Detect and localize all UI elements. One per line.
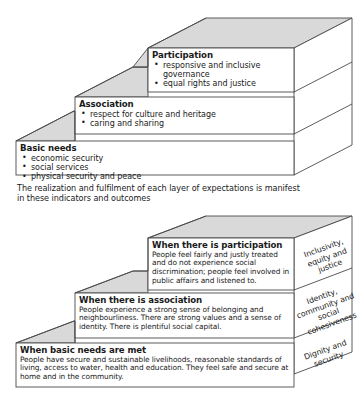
bottom-step-association-body: People experience a strong sense of belo… bbox=[79, 306, 292, 332]
bottom-step-association-title: When there is association bbox=[79, 295, 292, 305]
bottom-step-basic-needs-title: When basic needs are met bbox=[20, 345, 292, 355]
bottom-staircase-shape bbox=[0, 0, 363, 397]
bottom-step-association: When there is association People experie… bbox=[79, 295, 292, 332]
figure-stage: Participation •responsive and inclusive … bbox=[0, 0, 363, 397]
bottom-step-participation-body: People feel fairly and justly treated an… bbox=[152, 251, 292, 286]
bottom-step-basic-needs: When basic needs are met People have sec… bbox=[20, 345, 292, 382]
bottom-step-participation: When there is participation People feel … bbox=[152, 240, 292, 285]
bottom-step-basic-needs-body: People have secure and sustainable livel… bbox=[20, 356, 292, 382]
bottom-step-participation-title: When there is participation bbox=[152, 240, 292, 250]
